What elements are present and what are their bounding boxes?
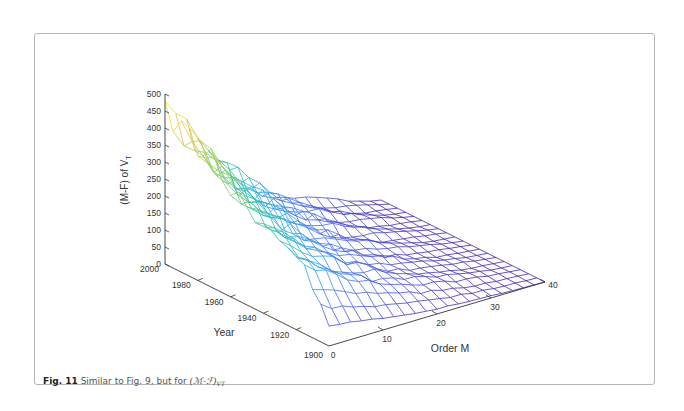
mesh-segment-order bbox=[307, 249, 318, 251]
mesh-segment-year bbox=[477, 255, 485, 259]
mesh-segment-order bbox=[458, 273, 469, 274]
mesh-segment-order bbox=[384, 232, 395, 233]
mesh-segment-order bbox=[409, 246, 420, 247]
mesh-segment-year bbox=[488, 253, 496, 257]
mesh-segment-year bbox=[436, 257, 444, 260]
mesh-segment-year bbox=[450, 298, 458, 304]
mesh-segment-order bbox=[332, 306, 343, 309]
mesh-segment-year bbox=[412, 262, 420, 268]
z-tick-label: 50 bbox=[152, 242, 162, 252]
mesh-segment-order bbox=[386, 304, 397, 305]
mesh-segment-year bbox=[480, 271, 488, 276]
mesh-segment-order bbox=[499, 272, 510, 274]
mesh-segment-order bbox=[355, 248, 366, 250]
mesh-segment-year bbox=[406, 212, 414, 216]
mesh-segment-year bbox=[399, 293, 407, 303]
mesh-segment-year bbox=[316, 197, 324, 208]
mesh-segment-order bbox=[507, 276, 518, 279]
mesh-segment-order bbox=[491, 268, 502, 270]
mesh-segment-order bbox=[442, 288, 453, 290]
mesh-segment-year bbox=[417, 231, 425, 236]
z-tick-label: 400 bbox=[147, 123, 161, 133]
mesh-segment-year bbox=[280, 241, 288, 248]
mesh-segment-year bbox=[342, 306, 350, 322]
mesh-segment-order bbox=[272, 231, 283, 232]
mesh-segment-year bbox=[431, 245, 439, 250]
mesh-segment-year bbox=[493, 264, 501, 268]
order-tick-mark bbox=[378, 327, 383, 330]
mesh-segment-year bbox=[332, 309, 340, 325]
z-tick-mark bbox=[165, 213, 169, 215]
mesh-segment-year bbox=[504, 286, 512, 291]
mesh-segment-year bbox=[364, 306, 372, 319]
mesh-segment-year bbox=[426, 277, 434, 282]
mesh-segment-year bbox=[409, 228, 417, 231]
mesh-segment-order bbox=[450, 294, 461, 297]
order-tick-label: 40 bbox=[548, 280, 558, 290]
mesh-segment-year bbox=[383, 278, 391, 284]
mesh-segment-order bbox=[431, 265, 442, 266]
mesh-segment-order bbox=[394, 315, 405, 317]
mesh-segment-year bbox=[397, 208, 405, 212]
mesh-segment-order bbox=[415, 257, 426, 258]
mesh-segment-year bbox=[392, 218, 400, 224]
mesh-segment-year bbox=[475, 286, 483, 290]
mesh-segment-year bbox=[421, 294, 429, 300]
year-axis-label: Year bbox=[213, 326, 235, 338]
mesh-segment-order bbox=[363, 233, 374, 236]
order-tick-label: 0 bbox=[331, 350, 336, 360]
z-tick-mark bbox=[165, 196, 169, 198]
mesh-segment-order bbox=[421, 290, 432, 293]
surface-plot: 050100150200250300350400450500 (M-F) of … bbox=[0, 0, 684, 411]
mesh-segment-order bbox=[472, 266, 483, 269]
mesh-segment-year bbox=[321, 304, 329, 326]
mesh-segment-order bbox=[375, 305, 386, 307]
mesh-segment-year bbox=[386, 305, 394, 317]
mesh-segment-year bbox=[504, 262, 512, 266]
mesh-segment-year bbox=[344, 226, 352, 237]
mesh-segment-year bbox=[367, 292, 375, 307]
mesh-segment-year bbox=[472, 268, 480, 271]
mesh-segment-order bbox=[447, 274, 458, 275]
mesh-segment-year bbox=[458, 253, 466, 257]
mesh-segment-order bbox=[376, 209, 387, 211]
mesh-segment-year bbox=[430, 225, 438, 229]
mesh-segment-year bbox=[395, 232, 403, 239]
mesh-segment-year bbox=[442, 290, 450, 297]
mesh-segment-order bbox=[436, 233, 447, 234]
mesh-segment-year bbox=[491, 270, 499, 274]
mesh-segment-year bbox=[515, 283, 523, 288]
mesh-segment-year bbox=[431, 267, 439, 273]
mesh-segment-order bbox=[401, 262, 412, 263]
mesh-segment-year bbox=[384, 233, 392, 241]
mesh-segment-year bbox=[387, 209, 395, 214]
mesh-segment-order bbox=[369, 263, 380, 264]
figure-number: Fig. 11 bbox=[43, 376, 78, 386]
mesh-segment-order bbox=[494, 286, 505, 289]
mesh-segment-year bbox=[482, 266, 490, 270]
mesh-segment-year bbox=[336, 239, 344, 252]
mesh-segment-year bbox=[315, 271, 323, 290]
mesh-segment-order bbox=[496, 279, 507, 282]
mesh-segment-order bbox=[399, 292, 410, 293]
mesh-segment-order bbox=[390, 263, 401, 265]
mesh-segment-order bbox=[450, 270, 461, 271]
mesh-segment-year bbox=[450, 248, 458, 253]
mesh-segment-order bbox=[482, 264, 493, 266]
mesh-segment-order bbox=[428, 229, 439, 230]
mesh-segment-year bbox=[402, 284, 410, 292]
mesh-segment-order bbox=[349, 220, 360, 222]
mesh-segment-order bbox=[390, 223, 401, 225]
mesh-segment-order bbox=[480, 270, 491, 271]
mesh-segment-order bbox=[439, 271, 450, 273]
z-tick-label: 200 bbox=[147, 191, 161, 201]
mesh-segment-year bbox=[366, 248, 374, 254]
mesh-segment-year bbox=[418, 301, 426, 311]
z-tick-mark bbox=[165, 128, 169, 130]
mesh-segment-year bbox=[406, 255, 414, 259]
mesh-segment-order bbox=[339, 254, 350, 255]
mesh-segment-order bbox=[377, 249, 388, 250]
mesh-segment-year bbox=[439, 250, 447, 255]
z-tick-mark bbox=[165, 247, 169, 249]
mesh-segment-year bbox=[469, 273, 477, 277]
